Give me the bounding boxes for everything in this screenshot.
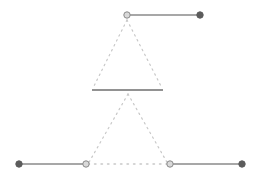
diagram-canvas	[0, 0, 257, 177]
bottom-left-start-dot[interactable]	[16, 161, 22, 167]
top-segment	[124, 12, 203, 18]
top-triangle-right-leg	[127, 20, 162, 88]
bottom-triangle-left-leg	[88, 94, 128, 164]
top-triangle	[93, 20, 162, 88]
top-segment-end-dot[interactable]	[197, 12, 203, 18]
bottom-triangle-right-leg	[128, 94, 168, 164]
bottom-right-start-dot[interactable]	[167, 161, 173, 167]
bottom-left-end-dot[interactable]	[83, 161, 89, 167]
top-segment-start-dot[interactable]	[124, 12, 130, 18]
bottom-left-segment	[16, 161, 89, 167]
bottom-right-end-dot[interactable]	[239, 161, 245, 167]
bottom-triangle	[88, 94, 168, 164]
bottom-right-segment	[167, 161, 245, 167]
top-triangle-left-leg	[93, 20, 127, 88]
